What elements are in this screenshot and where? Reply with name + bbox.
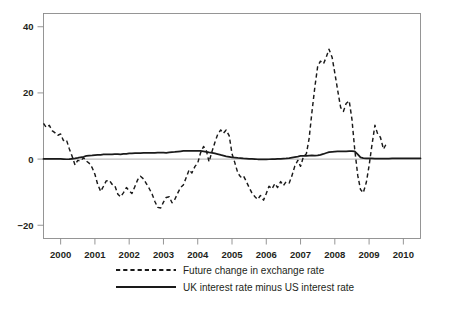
x-tick-label: 2006 — [256, 249, 277, 260]
series-line-1 — [44, 49, 387, 208]
y-tick-label: 20 — [23, 87, 34, 98]
y-tick-label: 0 — [28, 154, 33, 165]
x-tick-label: 2000 — [50, 249, 71, 260]
x-tick-label: 2009 — [359, 249, 380, 260]
x-tick-label: 2004 — [187, 249, 209, 260]
x-axis-ticks — [61, 239, 404, 245]
chart-legend: Future change in exchange rateUK interes… — [116, 265, 355, 293]
plot-frame — [44, 14, 421, 239]
x-tick-label: 2010 — [393, 249, 414, 260]
x-axis-tick-labels: 2000200120022003200420052006200720082009… — [50, 249, 414, 260]
x-tick-label: 2007 — [290, 249, 311, 260]
x-tick-label: 2005 — [221, 249, 243, 260]
y-axis-ticks — [38, 27, 44, 226]
data-series-layer — [44, 49, 421, 208]
y-tick-label: 40 — [23, 21, 34, 32]
chart-figure: −2002040 2000200120022003200420052006200… — [0, 0, 450, 309]
y-axis-tick-labels: −2002040 — [17, 21, 33, 231]
x-tick-label: 2003 — [153, 249, 174, 260]
legend-label: UK interest rate minus US interest rate — [183, 282, 355, 293]
line-chart: −2002040 2000200120022003200420052006200… — [0, 0, 450, 309]
x-tick-label: 2008 — [324, 249, 345, 260]
x-tick-label: 2002 — [119, 249, 140, 260]
x-tick-label: 2001 — [84, 249, 106, 260]
y-tick-label: −20 — [17, 220, 33, 231]
legend-label: Future change in exchange rate — [183, 265, 325, 276]
